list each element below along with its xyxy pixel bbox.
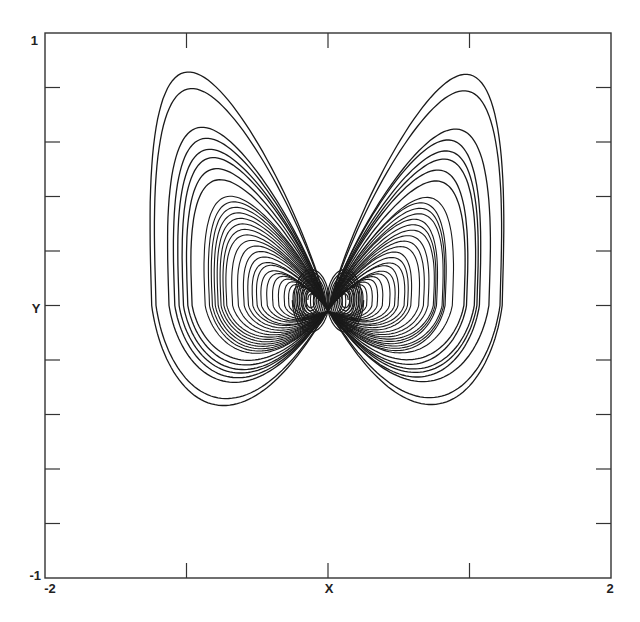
y-tick-label-top: 1	[31, 33, 38, 48]
y-tick-label-bottom: -1	[29, 568, 41, 583]
attractor-curves	[150, 72, 504, 405]
left-loop-curve	[154, 89, 328, 399]
x-axis-label: X	[325, 581, 334, 596]
attractor-chart: 1 -1 -2 2 X Y	[0, 0, 640, 622]
right-loop-curve	[328, 74, 504, 404]
left-loop-curve	[150, 72, 328, 405]
x-tick-label-right: 2	[606, 581, 613, 596]
x-tick-label-left: -2	[44, 581, 56, 596]
y-axis-label: Y	[32, 301, 41, 316]
